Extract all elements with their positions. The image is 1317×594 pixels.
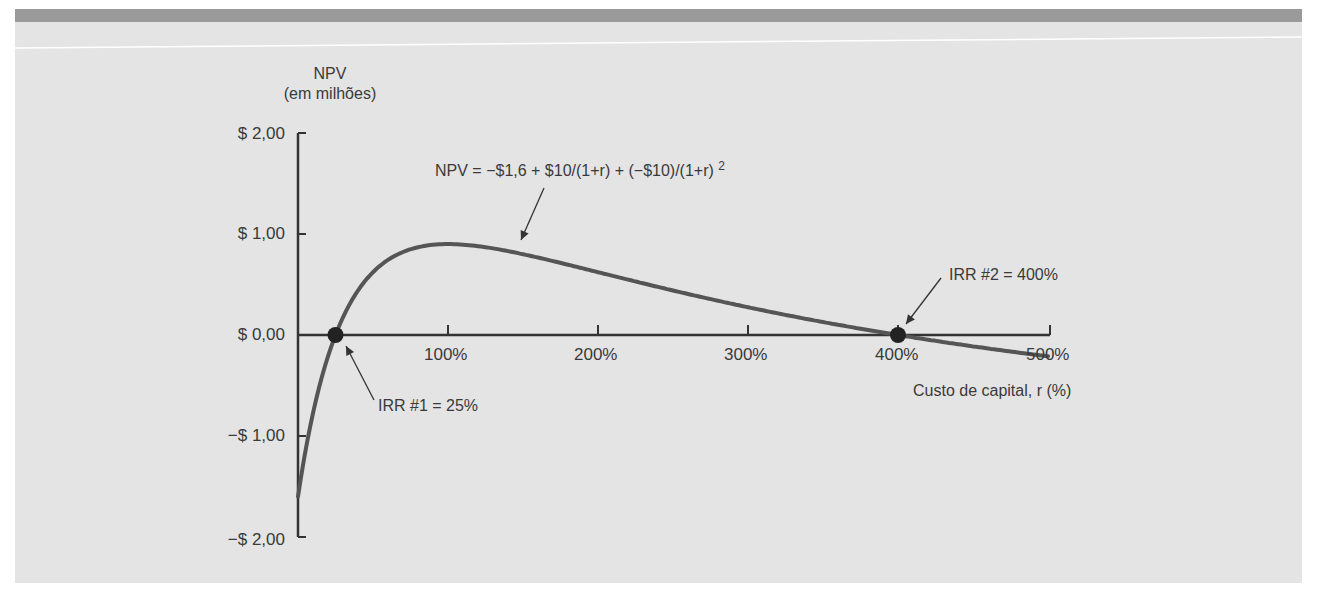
y-tick-label: −$ 1,00 — [205, 426, 285, 446]
irr2-label: IRR #2 = 400% — [949, 266, 1058, 284]
x-tick-label: 500% — [1026, 345, 1069, 365]
axes — [298, 133, 1050, 537]
x-axis-title: Custo de capital, r (%) — [913, 382, 1071, 400]
divider-line — [15, 37, 1302, 48]
y-tick-label: −$ 2,00 — [205, 530, 285, 550]
equation-exponent: 2 — [718, 159, 725, 173]
y-tick-label: $ 0,00 — [205, 325, 285, 345]
npv-chart — [0, 0, 1317, 594]
equation-label: NPV = −$1,6 + $10/(1+r) + (−$10)/(1+r) 2 — [435, 159, 725, 180]
x-tick-label: 400% — [875, 345, 918, 365]
y-tick-label: $ 2,00 — [205, 124, 285, 144]
x-tick-label: 100% — [424, 345, 467, 365]
npv-curve — [298, 244, 1048, 497]
x-tick-label: 200% — [574, 345, 617, 365]
y-axis-title-line2: (em milhões) — [270, 84, 390, 104]
x-tick-label: 300% — [724, 345, 767, 365]
y-tick-label: $ 1,00 — [205, 224, 285, 244]
y-axis-title-line1: NPV — [270, 64, 390, 84]
irr1-label: IRR #1 = 25% — [378, 397, 478, 415]
equation-text: NPV = −$1,6 + $10/(1+r) + (−$10)/(1+r) — [435, 162, 718, 179]
y-axis-title: NPV (em milhões) — [270, 64, 390, 104]
annotation-arrows — [346, 188, 941, 400]
